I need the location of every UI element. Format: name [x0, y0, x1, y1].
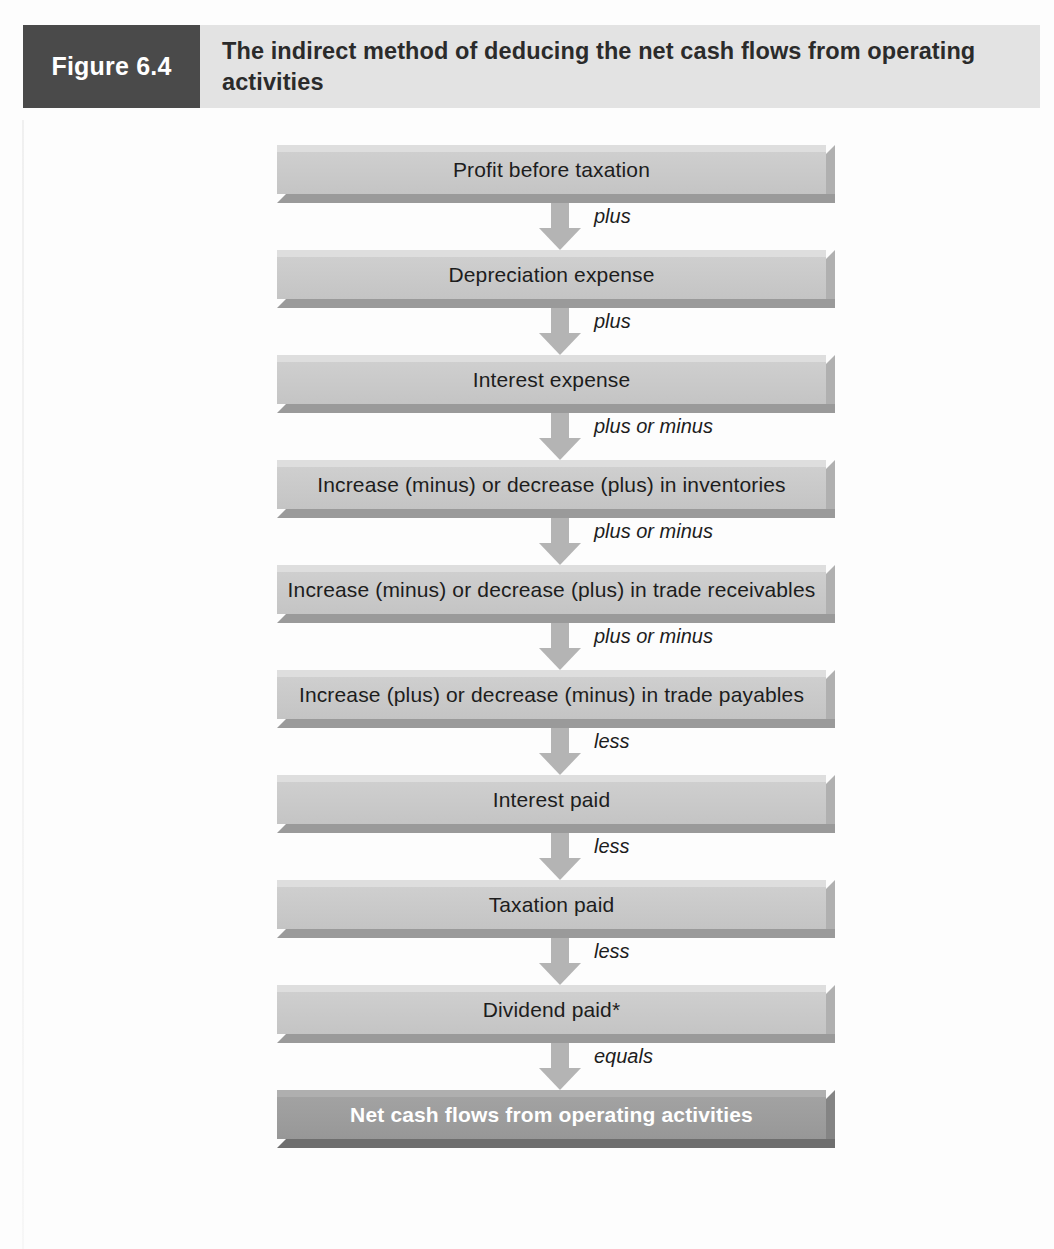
flow-node-label: Increase (minus) or decrease (plus) in i…: [317, 473, 786, 497]
arrow-shaft: [551, 728, 569, 755]
arrow-head: [539, 333, 581, 355]
connector-label: plus: [594, 205, 631, 228]
node-top-highlight: [277, 565, 826, 572]
connector-label: equals: [594, 1045, 653, 1068]
arrow-head: [539, 543, 581, 565]
connector-label: plus or minus: [594, 520, 713, 543]
flow-chart: Profit before taxationplusDepreciation e…: [0, 0, 1054, 1249]
node-face: Dividend paid*: [277, 985, 826, 1034]
node-face: Increase (minus) or decrease (plus) in i…: [277, 460, 826, 509]
flow-node-trade-receivables: Increase (minus) or decrease (plus) in t…: [277, 565, 835, 623]
node-bevel-bottom: [277, 299, 835, 308]
flow-node-net-cash-flows: Net cash flows from operating activities: [277, 1090, 835, 1148]
node-face: Increase (plus) or decrease (minus) in t…: [277, 670, 826, 719]
flow-connector-interest-expense-to-inventories: plus or minus: [277, 413, 835, 460]
node-top-highlight: [277, 880, 826, 887]
connector-label: plus: [594, 310, 631, 333]
arrow-down-icon: [539, 938, 581, 985]
flow-node-label: Taxation paid: [489, 893, 615, 917]
flow-node-label: Increase (minus) or decrease (plus) in t…: [288, 578, 816, 602]
arrow-down-icon: [539, 728, 581, 775]
arrow-shaft: [551, 413, 569, 440]
arrow-head: [539, 648, 581, 670]
flow-node-label: Depreciation expense: [448, 263, 654, 287]
flow-node-profit-before-taxation: Profit before taxation: [277, 145, 835, 203]
node-top-highlight: [277, 250, 826, 257]
flow-node-label: Interest paid: [493, 788, 611, 812]
connector-label: less: [594, 730, 630, 753]
flow-connector-taxation-paid-to-dividend-paid: less: [277, 938, 835, 985]
node-top-highlight: [277, 670, 826, 677]
arrow-down-icon: [539, 203, 581, 250]
flow-connector-inventories-to-trade-receivables: plus or minus: [277, 518, 835, 565]
node-top-highlight: [277, 1090, 826, 1097]
node-face: Interest expense: [277, 355, 826, 404]
flow-connector-trade-payables-to-interest-paid: less: [277, 728, 835, 775]
arrow-down-icon: [539, 833, 581, 880]
arrow-shaft: [551, 833, 569, 860]
connector-label: plus or minus: [594, 625, 713, 648]
arrow-head: [539, 753, 581, 775]
arrow-down-icon: [539, 308, 581, 355]
arrow-shaft: [551, 938, 569, 965]
flow-node-taxation-paid: Taxation paid: [277, 880, 835, 938]
flow-connector-dividend-paid-to-net-cash-flows: equals: [277, 1043, 835, 1090]
arrow-head: [539, 858, 581, 880]
arrow-down-icon: [539, 623, 581, 670]
arrow-down-icon: [539, 1043, 581, 1090]
node-face: Depreciation expense: [277, 250, 826, 299]
flow-node-label: Net cash flows from operating activities: [350, 1103, 753, 1127]
flow-connector-depreciation-expense-to-interest-expense: plus: [277, 308, 835, 355]
node-bevel-bottom: [277, 719, 835, 728]
arrow-head: [539, 1068, 581, 1090]
connector-label: plus or minus: [594, 415, 713, 438]
arrow-down-icon: [539, 518, 581, 565]
node-top-highlight: [277, 985, 826, 992]
flow-node-inventories: Increase (minus) or decrease (plus) in i…: [277, 460, 835, 518]
node-bevel-bottom: [277, 614, 835, 623]
node-face: Increase (minus) or decrease (plus) in t…: [277, 565, 826, 614]
arrow-head: [539, 228, 581, 250]
arrow-shaft: [551, 1043, 569, 1070]
node-bevel-bottom: [277, 1139, 835, 1148]
node-bevel-bottom: [277, 929, 835, 938]
flow-node-label: Dividend paid*: [483, 998, 621, 1022]
flow-connector-profit-before-taxation-to-depreciation-expense: plus: [277, 203, 835, 250]
node-top-highlight: [277, 460, 826, 467]
flow-node-label: Interest expense: [473, 368, 631, 392]
connector-label: less: [594, 835, 630, 858]
node-bevel-bottom: [277, 509, 835, 518]
node-bevel-bottom: [277, 194, 835, 203]
node-top-highlight: [277, 355, 826, 362]
node-bevel-bottom: [277, 824, 835, 833]
arrow-shaft: [551, 623, 569, 650]
arrow-down-icon: [539, 413, 581, 460]
arrow-head: [539, 438, 581, 460]
arrow-shaft: [551, 203, 569, 230]
node-bevel-bottom: [277, 404, 835, 413]
node-top-highlight: [277, 145, 826, 152]
node-face: Net cash flows from operating activities: [277, 1090, 826, 1139]
flow-node-depreciation-expense: Depreciation expense: [277, 250, 835, 308]
arrow-head: [539, 963, 581, 985]
flow-connector-trade-receivables-to-trade-payables: plus or minus: [277, 623, 835, 670]
node-face: Interest paid: [277, 775, 826, 824]
node-face: Taxation paid: [277, 880, 826, 929]
connector-label: less: [594, 940, 630, 963]
arrow-shaft: [551, 518, 569, 545]
flow-node-label: Increase (plus) or decrease (minus) in t…: [299, 683, 804, 707]
arrow-shaft: [551, 308, 569, 335]
flow-node-interest-expense: Interest expense: [277, 355, 835, 413]
node-top-highlight: [277, 775, 826, 782]
flow-node-label: Profit before taxation: [453, 158, 650, 182]
flow-node-dividend-paid: Dividend paid*: [277, 985, 835, 1043]
flow-node-trade-payables: Increase (plus) or decrease (minus) in t…: [277, 670, 835, 728]
node-face: Profit before taxation: [277, 145, 826, 194]
flow-node-interest-paid: Interest paid: [277, 775, 835, 833]
flow-connector-interest-paid-to-taxation-paid: less: [277, 833, 835, 880]
node-bevel-bottom: [277, 1034, 835, 1043]
